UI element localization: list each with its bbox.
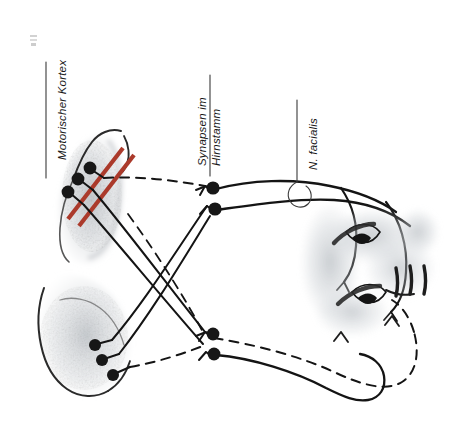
neuron-dots-layer [0,0,456,431]
neuron-cortex-lower-3 [107,369,119,381]
neuron-cortex-lower-2 [96,354,108,366]
synapse-lower-2 [208,348,221,361]
cortex-upper-neurons [62,162,97,199]
neuron-cortex-upper-1 [84,162,97,175]
synapse-lower-1 [207,328,220,341]
cortex-lower-neurons [89,339,119,381]
neuron-cortex-upper-3 [62,186,75,199]
brainstem-lower-synapses [207,328,221,361]
brainstem-upper-synapses [206,181,221,215]
synapse-upper-1 [206,181,219,194]
figure-canvas: Motorischer Kortex Synapsen imHirnstamm … [0,0,456,431]
neuron-cortex-lower-1 [89,339,101,351]
neuron-cortex-upper-2 [72,173,85,186]
synapse-upper-2 [208,202,221,215]
